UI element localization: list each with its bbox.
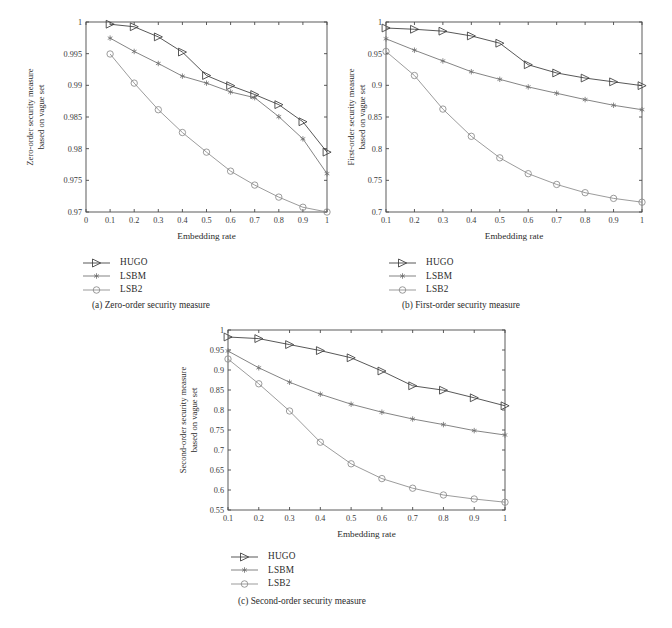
series-lsbm — [108, 35, 330, 176]
plot-frame — [86, 22, 327, 212]
x-axis-title: Embedding rate — [337, 529, 395, 539]
y-tick-label: 1 — [378, 18, 382, 27]
x-tick-label: 0.2 — [254, 514, 264, 523]
y-tick-label: 0.85 — [210, 386, 224, 395]
legend-label: LSBM — [418, 270, 452, 284]
legend-second-order: HUGOLSBMLSB2 — [230, 550, 296, 591]
x-tick-label: 0.3 — [284, 514, 294, 523]
x-tick-label: 0.1 — [381, 216, 391, 225]
legend-item-lsbm: LSBM — [82, 270, 148, 284]
chart-zero-order: 00.10.20.30.40.50.60.70.80.910.970.9750.… — [0, 0, 340, 260]
x-tick-label: 0.2 — [409, 216, 419, 225]
y-axis-title: First-order security measurebased on vag… — [346, 68, 367, 165]
y-tick-label: 0.75 — [368, 176, 382, 185]
x-tick-label: 0.6 — [377, 514, 387, 523]
legend-item-hugo: HUGO — [388, 256, 454, 270]
x-tick-label: 1 — [503, 514, 507, 523]
x-tick-label: 0.9 — [608, 216, 618, 225]
x-tick-label: 0.1 — [223, 514, 233, 523]
y-tick-label: 0.95 — [368, 50, 382, 59]
x-tick-label: 0.5 — [495, 216, 505, 225]
y-tick-label: 1 — [220, 326, 224, 335]
plot-frame — [386, 22, 642, 212]
x-tick-label: 0.6 — [523, 216, 533, 225]
x-tick-label: 0.8 — [580, 216, 590, 225]
y-tick-label: 0.75 — [210, 426, 224, 435]
y-tick-label: 1 — [78, 18, 82, 27]
marker-asterisk-icon — [287, 379, 292, 384]
marker-asterisk-icon — [441, 58, 446, 63]
triangle-right-icon — [82, 257, 112, 269]
x-tick-label: 0.3 — [153, 216, 163, 225]
y-axis-title: Second-order security measurebased on va… — [178, 367, 199, 474]
circle-icon — [388, 284, 418, 296]
asterisk-icon — [388, 270, 418, 282]
triangle-right-icon — [388, 257, 418, 269]
legend-item-lsb2: LSB2 — [230, 577, 296, 591]
y-axis-title: Zero-order security measurebased on vagu… — [25, 68, 46, 166]
y-tick-label: 0.6 — [214, 486, 224, 495]
x-tick-label: 1 — [325, 216, 329, 225]
marker-asterisk-icon — [204, 80, 209, 85]
legend-label: LSB2 — [418, 283, 449, 297]
y-tick-label: 0.985 — [64, 113, 82, 122]
y-tick-label: 0.99 — [68, 81, 82, 90]
x-tick-label: 0.7 — [552, 216, 562, 225]
x-tick-label: 0.4 — [177, 216, 187, 225]
x-tick-label: 0.5 — [201, 216, 211, 225]
asterisk-icon — [82, 270, 112, 282]
y-tick-label: 0.975 — [64, 176, 82, 185]
svg-text:based on vague set: based on vague set — [36, 84, 46, 149]
marker-asterisk-icon — [318, 391, 323, 396]
marker-asterisk-icon — [384, 36, 389, 41]
x-axis-title: Embedding rate — [485, 231, 543, 241]
chart-first-order: 0.10.20.30.40.50.60.70.80.910.70.750.80.… — [340, 0, 672, 260]
x-tick-label: 0.6 — [225, 216, 235, 225]
chart-second-order: 0.10.20.30.40.50.60.70.80.910.550.60.650… — [150, 322, 530, 557]
y-tick-label: 0.8 — [214, 406, 224, 415]
x-tick-label: 0.3 — [438, 216, 448, 225]
series-lsbm — [226, 348, 508, 437]
x-axis-title: Embedding rate — [177, 231, 235, 241]
legend-item-hugo: HUGO — [230, 550, 296, 564]
y-tick-label: 0.97 — [68, 208, 82, 217]
svg-text:Zero-order security measure: Zero-order security measure — [25, 68, 35, 166]
x-tick-label: 0.1 — [105, 216, 115, 225]
legend-item-lsbm: LSBM — [388, 270, 454, 284]
marker-asterisk-icon — [226, 348, 231, 353]
legend-label: LSBM — [260, 564, 294, 578]
legend-item-lsb2: LSB2 — [388, 283, 454, 297]
legend-label: LSB2 — [260, 577, 291, 591]
x-tick-label: 0.8 — [438, 514, 448, 523]
y-tick-label: 0.95 — [210, 346, 224, 355]
marker-asterisk-icon — [132, 49, 137, 54]
x-tick-label: 0.9 — [298, 216, 308, 225]
svg-text:based on vague set: based on vague set — [357, 84, 367, 149]
series-lsbm — [384, 36, 645, 112]
y-tick-label: 0.98 — [68, 145, 82, 154]
x-tick-label: 0.5 — [346, 514, 356, 523]
legend-item-hugo: HUGO — [82, 256, 148, 270]
y-tick-label: 0.7 — [372, 208, 382, 217]
legend-label: HUGO — [112, 256, 148, 270]
legend-item-lsb2: LSB2 — [82, 283, 148, 297]
y-tick-label: 0.85 — [368, 113, 382, 122]
x-tick-label: 0.7 — [408, 514, 418, 523]
marker-asterisk-icon — [469, 69, 474, 74]
y-tick-label: 0.9 — [372, 81, 382, 90]
legend-label: LSB2 — [112, 283, 143, 297]
y-tick-label: 0.995 — [64, 50, 82, 59]
marker-asterisk-icon — [180, 73, 185, 78]
caption-second-order: (c) Second-order security measure — [238, 596, 366, 606]
x-tick-label: 0.4 — [315, 514, 325, 523]
caption-first-order: (b) First-order security measure — [402, 300, 520, 310]
x-tick-label: 0 — [84, 216, 88, 225]
series-hugo — [382, 24, 646, 89]
marker-asterisk-icon — [256, 365, 261, 370]
triangle-right-icon — [230, 551, 260, 563]
circle-icon — [230, 578, 260, 590]
marker-asterisk-icon — [156, 61, 161, 66]
x-tick-label: 0.7 — [250, 216, 260, 225]
caption-zero-order: (a) Zero-order security measure — [92, 300, 210, 310]
svg-text:First-order security measure: First-order security measure — [346, 68, 356, 165]
